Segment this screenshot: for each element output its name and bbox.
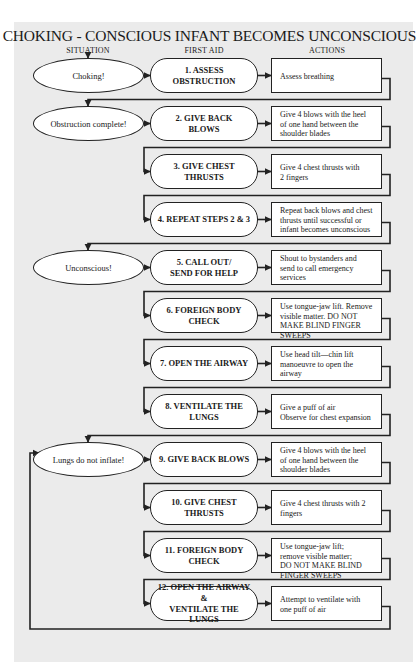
action-box: Give 4 blows with the heel of one hand b… <box>271 106 382 141</box>
action-box: Assess breathing <box>271 58 382 93</box>
action-box: Use head tilt—chin lift manoeuvre to ope… <box>271 346 382 381</box>
first-aid-step: 5. CALL OUT/ SEND FOR HELP <box>150 250 258 285</box>
action-box: Use tongue-jaw lift. Remove visible matt… <box>271 298 382 333</box>
first-aid-step: 1. ASSESS OBSTRUCTION <box>150 58 258 93</box>
first-aid-step: 6. FOREIGN BODY CHECK <box>150 298 258 333</box>
action-box: Repeat back blows and chest thrusts unti… <box>271 202 382 237</box>
first-aid-step: 7. OPEN THE AIRWAY <box>150 346 258 381</box>
situation-oval: Unconscious! <box>33 250 144 285</box>
action-box: Give 4 blows with the heel of one hand b… <box>271 442 382 477</box>
action-box: Give 4 chest thrusts with 2 fingers <box>271 154 382 189</box>
first-aid-step: 11. FOREIGN BODY CHECK <box>150 538 258 573</box>
action-box: Attempt to ventilate with one puff of ai… <box>271 586 382 621</box>
first-aid-step: 9. GIVE BACK BLOWS <box>150 442 258 477</box>
situation-oval: Lungs do not inflate! <box>33 442 144 477</box>
first-aid-step: 8. VENTILATE THE LUNGS <box>150 394 258 429</box>
first-aid-step: 2. GIVE BACK BLOWS <box>150 106 258 141</box>
first-aid-step: 4. REPEAT STEPS 2 & 3 <box>150 202 258 237</box>
action-box: Use tongue-jaw lift; remove visible matt… <box>271 538 382 573</box>
situation-oval: Obstruction complete! <box>33 106 144 141</box>
first-aid-step: 3. GIVE CHEST THRUSTS <box>150 154 258 189</box>
action-box: Give 4 chest thrusts with 2 fingers <box>271 490 382 525</box>
action-box: Give a puff of air Observe for chest exp… <box>271 394 382 429</box>
first-aid-step: 10. GIVE CHEST THRUSTS <box>150 490 258 525</box>
situation-oval: Choking! <box>33 58 144 93</box>
action-box: Shout to bystanders and send to call eme… <box>271 250 382 285</box>
first-aid-step: 12. OPEN THE AIRWAY & VENTILATE THE LUNG… <box>150 586 258 621</box>
